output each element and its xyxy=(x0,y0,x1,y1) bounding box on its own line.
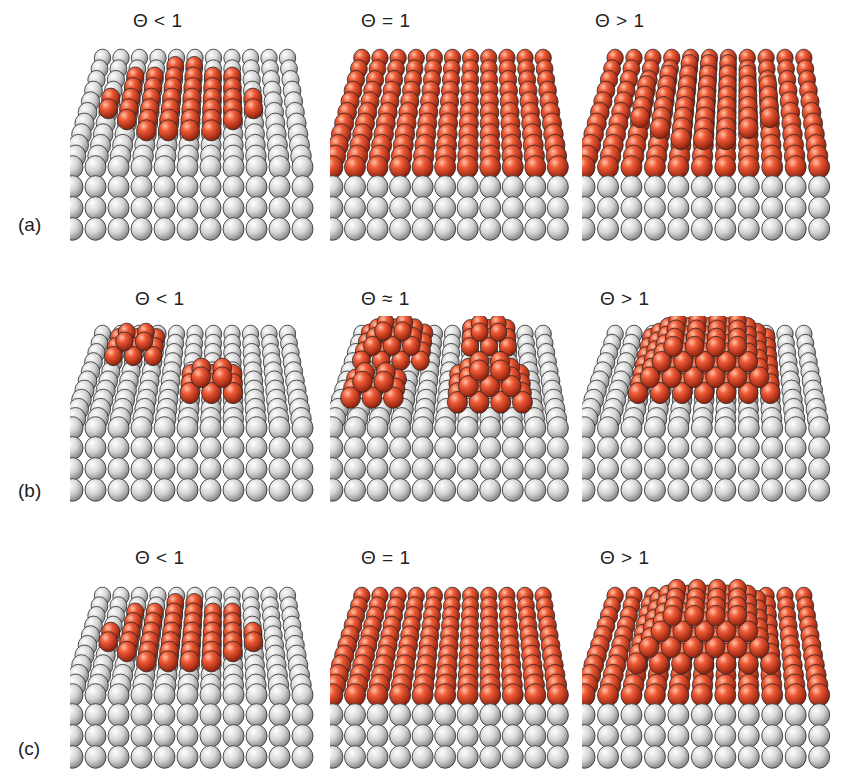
slab-panel-c3 xyxy=(582,578,837,773)
coverage-label-c2: Θ = 1 xyxy=(361,547,411,569)
slab-panel-c2 xyxy=(330,578,575,773)
adsorbate-layer xyxy=(628,316,780,404)
coverage-label-a2: Θ = 1 xyxy=(361,10,411,32)
coverage-label-a3: Θ > 1 xyxy=(595,10,645,32)
row-label-c: (c) xyxy=(18,738,40,760)
slab-panel-b2 xyxy=(330,316,575,506)
substrate-layer xyxy=(330,587,568,768)
coverage-label-b3: Θ > 1 xyxy=(600,288,650,310)
coverage-label-a1: Θ < 1 xyxy=(133,10,183,32)
coverage-label-b2: Θ ≈ 1 xyxy=(361,288,410,310)
row-label-a: (a) xyxy=(18,214,41,236)
coverage-label-c1: Θ < 1 xyxy=(135,547,185,569)
slab-panel-a1 xyxy=(70,40,320,245)
row-label-b: (b) xyxy=(18,480,41,502)
slab-panel-c1 xyxy=(70,578,320,773)
slab-panel-a3 xyxy=(582,40,837,245)
coverage-label-c3: Θ > 1 xyxy=(600,547,650,569)
substrate-layer xyxy=(330,49,568,240)
coverage-label-b1: Θ < 1 xyxy=(135,288,185,310)
slab-panel-b3 xyxy=(582,316,837,506)
slab-panel-b1 xyxy=(70,316,320,506)
slab-panel-a2 xyxy=(330,40,575,245)
